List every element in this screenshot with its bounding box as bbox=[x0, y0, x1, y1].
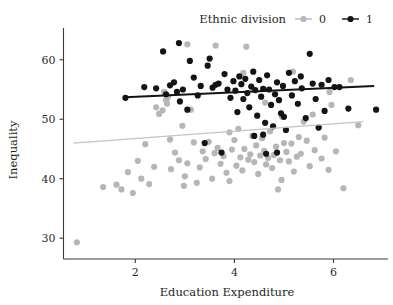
data-point bbox=[312, 147, 318, 153]
data-point bbox=[212, 150, 218, 156]
data-point bbox=[348, 77, 354, 83]
data-point bbox=[255, 171, 261, 177]
data-point bbox=[146, 181, 152, 187]
data-point bbox=[263, 161, 269, 167]
fit-line-series-0 bbox=[73, 122, 363, 143]
data-point bbox=[226, 129, 232, 135]
data-point bbox=[113, 182, 119, 188]
y-tick-label: 40 bbox=[42, 173, 56, 186]
data-point bbox=[313, 96, 319, 102]
data-point bbox=[254, 113, 260, 119]
data-point bbox=[286, 70, 292, 76]
data-point bbox=[325, 167, 331, 173]
legend-key-marker bbox=[347, 16, 353, 22]
data-point bbox=[340, 185, 346, 191]
data-point bbox=[184, 160, 190, 166]
x-tick-label: 4 bbox=[231, 266, 238, 279]
legend: Ethnic division01 bbox=[199, 12, 373, 26]
data-point bbox=[74, 239, 80, 245]
data-point bbox=[159, 107, 165, 113]
data-point bbox=[251, 133, 257, 139]
data-point bbox=[288, 141, 294, 147]
data-point bbox=[176, 40, 182, 46]
data-point bbox=[245, 157, 251, 163]
data-point bbox=[184, 107, 190, 113]
x-tick-label: 2 bbox=[132, 266, 139, 279]
data-point bbox=[202, 140, 208, 146]
data-point bbox=[321, 135, 327, 141]
data-point bbox=[197, 164, 203, 170]
data-point bbox=[321, 108, 327, 114]
data-point bbox=[328, 102, 334, 108]
data-point bbox=[221, 71, 227, 77]
data-point bbox=[291, 168, 297, 174]
data-point bbox=[153, 104, 159, 110]
data-point bbox=[281, 140, 287, 146]
data-point bbox=[215, 80, 221, 86]
data-point bbox=[179, 123, 185, 129]
data-point bbox=[256, 77, 262, 83]
data-point bbox=[268, 102, 274, 108]
data-point bbox=[286, 158, 292, 164]
data-point bbox=[251, 159, 257, 165]
legend-item-0[interactable]: 0 bbox=[295, 13, 326, 26]
data-point bbox=[307, 51, 313, 57]
y-tick-label: 30 bbox=[42, 232, 56, 245]
data-point bbox=[298, 73, 304, 79]
data-point bbox=[209, 176, 215, 182]
data-point bbox=[345, 105, 351, 111]
data-point bbox=[310, 80, 316, 86]
data-point bbox=[253, 142, 259, 148]
data-point bbox=[298, 151, 304, 157]
y-axis-title: Inequality bbox=[6, 120, 20, 179]
data-point bbox=[333, 148, 339, 154]
data-point bbox=[118, 186, 124, 192]
data-point bbox=[218, 149, 224, 155]
data-point bbox=[212, 42, 218, 48]
data-point bbox=[238, 81, 244, 87]
data-point bbox=[130, 190, 136, 196]
data-point bbox=[125, 169, 131, 175]
data-point bbox=[194, 180, 200, 186]
y-tick-label: 50 bbox=[42, 113, 56, 126]
legend-item-1[interactable]: 1 bbox=[342, 13, 373, 26]
data-point bbox=[243, 44, 249, 50]
data-point bbox=[239, 167, 245, 173]
data-point bbox=[227, 95, 233, 101]
data-point bbox=[247, 151, 253, 157]
data-point bbox=[207, 55, 213, 61]
data-point bbox=[187, 58, 193, 64]
data-point bbox=[241, 146, 247, 152]
data-point bbox=[233, 163, 239, 169]
legend-label: 1 bbox=[366, 13, 373, 26]
data-point bbox=[181, 183, 187, 189]
data-point bbox=[223, 170, 229, 176]
data-point bbox=[355, 122, 361, 128]
data-point bbox=[160, 48, 166, 54]
data-point bbox=[184, 41, 190, 47]
data-point bbox=[214, 145, 220, 151]
scatter-plot-figure: Ethnic division01 30405060246 Education … bbox=[0, 0, 393, 305]
data-point bbox=[373, 107, 379, 113]
data-point bbox=[226, 178, 232, 184]
data-point bbox=[198, 83, 204, 89]
data-point bbox=[307, 163, 313, 169]
data-point bbox=[292, 78, 298, 84]
data-point bbox=[274, 79, 280, 85]
x-tick-label: 6 bbox=[330, 266, 337, 279]
data-point bbox=[242, 76, 248, 82]
data-point bbox=[231, 137, 237, 143]
data-point bbox=[272, 91, 278, 97]
data-point bbox=[273, 143, 279, 149]
data-point bbox=[296, 134, 302, 140]
data-point bbox=[171, 79, 177, 85]
data-point bbox=[182, 173, 188, 179]
data-point bbox=[274, 149, 280, 155]
data-point bbox=[240, 96, 246, 102]
data-point bbox=[151, 164, 157, 170]
series-1-points bbox=[122, 40, 379, 157]
data-point bbox=[304, 138, 310, 144]
data-point bbox=[319, 82, 325, 88]
data-point bbox=[180, 86, 186, 92]
x-axis-title: Education Expenditure bbox=[160, 285, 295, 299]
